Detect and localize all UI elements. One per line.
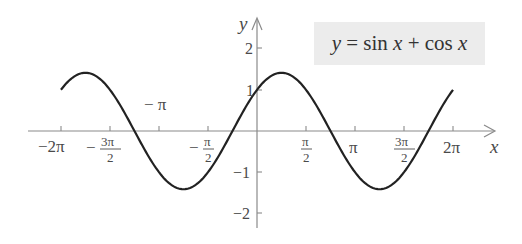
tick-label-neg-3pi2-minus: − [86, 138, 96, 157]
legend-x2: x [458, 31, 467, 56]
tick-label-neg-pi2-den: 2 [205, 150, 212, 165]
tick-label-y-neg2: −2 [233, 205, 250, 222]
legend-x1: x [393, 31, 402, 56]
tick-label-neg-3pi2-num: 3π [101, 134, 115, 149]
legend-y: y [332, 31, 341, 56]
tick-label-y-neg1: −1 [233, 164, 250, 181]
tick-label-pi2-num: π [302, 134, 309, 149]
tick-label-3pi2-num: 3π [395, 134, 409, 149]
legend-eq: = sin [341, 31, 393, 56]
tick-label-y-2: 2 [245, 40, 253, 57]
tick-label-pi2-den: 2 [303, 150, 310, 165]
x-axis-label: x [489, 136, 499, 157]
tick-label-pi: π [349, 138, 358, 157]
tick-label-neg-2pi: −2π [38, 137, 65, 156]
tick-label-neg-pi: − π [144, 95, 167, 114]
tick-label-neg-pi2-minus: − [189, 138, 199, 157]
tick-label-neg-pi2-num: π [204, 134, 211, 149]
tick-label-3pi2-den: 2 [401, 150, 408, 165]
tick-label-neg-3pi2-den: 2 [107, 150, 114, 165]
legend-plus: + cos [402, 31, 458, 56]
y-axis-label: y [237, 13, 248, 34]
equation-legend: y = sin x + cos x [314, 22, 485, 65]
tick-label-y-1: 1 [246, 82, 254, 99]
tick-label-2pi: 2π [443, 138, 461, 157]
